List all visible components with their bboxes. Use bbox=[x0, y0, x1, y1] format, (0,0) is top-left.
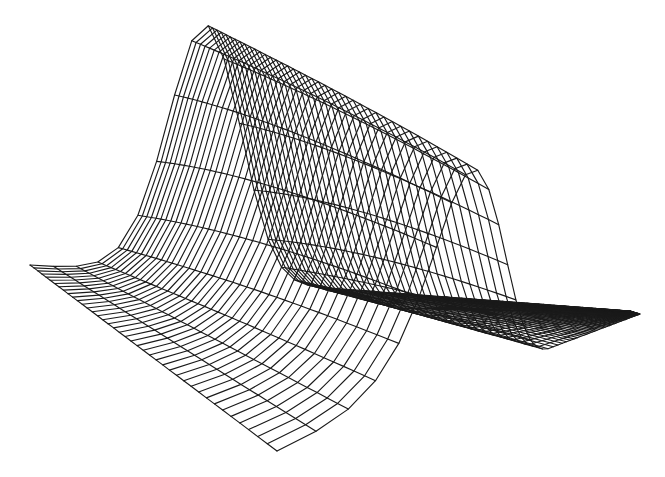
mesh-canvas bbox=[0, 0, 665, 477]
wireframe-surface-figure bbox=[0, 0, 665, 477]
